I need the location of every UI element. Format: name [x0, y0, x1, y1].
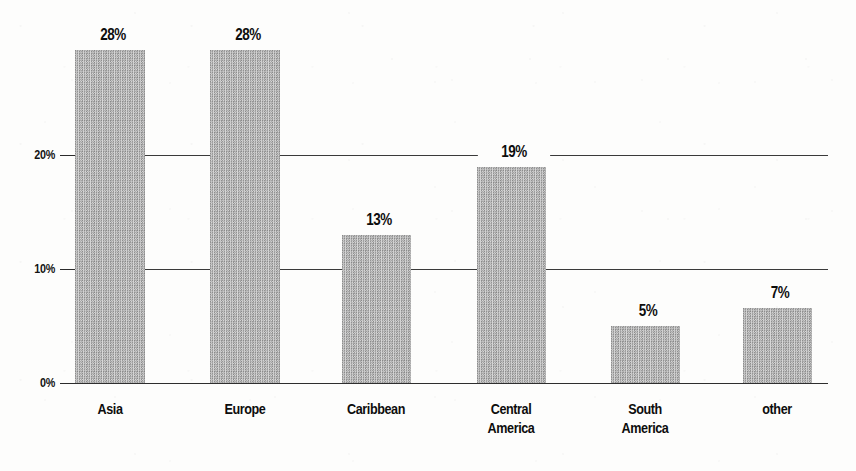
tick-mark-10 — [60, 269, 75, 270]
bar-value-other: 7% — [744, 284, 816, 302]
x-axis-label-asia: Asia — [68, 399, 152, 418]
bar-value-caribbean: 13% — [343, 211, 415, 229]
tick-mark-20 — [60, 155, 75, 156]
x-axis-label-europe: Europe — [203, 399, 287, 418]
tick-mark-0 — [60, 383, 75, 384]
bar-europe[interactable] — [210, 50, 280, 383]
bar-value-south-america: 5% — [612, 302, 684, 320]
bar-value-asia: 28% — [77, 26, 149, 44]
x-axis-label-south-america: South America — [603, 399, 687, 437]
bar-chart: 20% 10% 0% 28% 28% 13% 19% 5% 7% Asia Eu… — [0, 0, 856, 471]
y-axis-label-0: 0% — [8, 376, 55, 390]
bar-caribbean[interactable] — [342, 235, 411, 383]
x-axis-label-central-america: Central America — [469, 399, 553, 437]
bar-central-america[interactable] — [477, 167, 546, 383]
bar-south-america[interactable] — [611, 326, 680, 383]
y-axis-label-10: 10% — [8, 262, 55, 276]
gridline-10 — [75, 269, 828, 270]
bar-value-central-america: 19% — [478, 143, 550, 161]
plot-area: 20% 10% 0% 28% 28% 13% 19% 5% 7% Asia Eu… — [0, 0, 856, 471]
x-axis-label-caribbean: Caribbean — [334, 399, 418, 418]
y-axis-label-20: 20% — [8, 148, 55, 162]
x-axis-label-other: other — [735, 399, 819, 418]
gridline-20 — [75, 155, 828, 156]
bar-asia[interactable] — [75, 50, 145, 383]
bar-value-europe: 28% — [212, 26, 284, 44]
axis-baseline-0 — [75, 383, 828, 384]
bar-other[interactable] — [743, 308, 812, 383]
